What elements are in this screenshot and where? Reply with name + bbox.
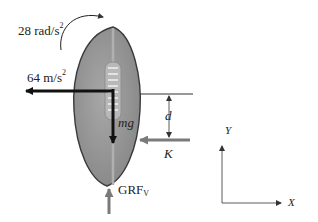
football-free-body-diagram: 28 rad/s2 64 m/s2 mg d K GRFV Y X [0,0,318,222]
axis-y-label: Y [225,125,231,136]
football [74,27,141,186]
linear-acceleration-label: 64 m/s2 [27,71,66,84]
axis-x-label: X [288,197,295,208]
kick-force-label: K [164,147,173,160]
distance-arrowhead-bottom [166,132,172,138]
grf-vertical-label: GRFV [118,183,149,196]
distance-label: d [165,109,172,122]
angular-acceleration-label: 28 rad/s2 [18,24,64,37]
distance-arrowhead-top [166,95,172,101]
weight-label: mg [118,116,134,129]
coordinate-axes [222,146,281,203]
